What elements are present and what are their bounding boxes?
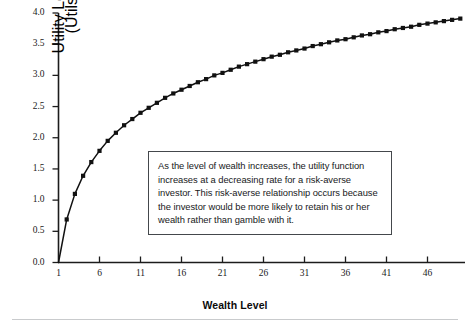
data-point-marker [360, 33, 364, 37]
data-point-marker [393, 27, 397, 31]
data-point-marker [434, 20, 438, 24]
data-point-marker [261, 57, 265, 61]
bottom-divider-rule [12, 319, 458, 320]
data-point-marker [138, 111, 142, 115]
data-point-marker [204, 77, 208, 81]
data-point-marker [188, 84, 192, 88]
y-axis-tick-label: 3.0 [19, 69, 45, 79]
data-point-marker [65, 217, 69, 221]
x-axis-ticks [100, 257, 428, 263]
x-axis-tick-label: 11 [129, 268, 153, 278]
data-point-marker [458, 17, 462, 21]
data-point-marker [376, 30, 380, 34]
y-axis-tick-label: 2.0 [19, 132, 45, 142]
data-point-marker [294, 48, 298, 52]
data-point-marker [311, 44, 315, 48]
data-point-marker [114, 131, 118, 135]
data-point-marker [106, 139, 110, 143]
x-axis-tick-label: 41 [375, 268, 399, 278]
data-point-marker [212, 73, 216, 77]
data-point-marker [147, 106, 151, 110]
y-axis-tick-label: 0.5 [19, 225, 45, 235]
data-point-marker [302, 46, 306, 50]
y-axis-tick-label: 2.5 [19, 101, 45, 111]
data-point-marker [73, 192, 77, 196]
x-axis-title: Wealth Level [0, 299, 470, 311]
utility-function-chart: 0.00.51.01.52.02.53.03.54.0 161116212631… [0, 0, 470, 325]
data-point-marker [450, 18, 454, 22]
x-axis-tick-label: 31 [293, 268, 317, 278]
data-point-marker [425, 22, 429, 26]
data-point-marker [237, 65, 241, 69]
y-axis-tick-label: 0.0 [19, 257, 45, 267]
data-point-marker [196, 80, 200, 84]
data-point-marker [179, 88, 183, 92]
y-axis-title-line-2: (Utils) [65, 0, 78, 78]
y-axis-tick-label: 1.5 [19, 163, 45, 173]
data-point-marker [384, 29, 388, 33]
data-point-marker [130, 117, 134, 121]
data-point-marker [286, 50, 290, 54]
data-point-marker [163, 96, 167, 100]
data-point-marker [352, 35, 356, 39]
x-axis-tick-label: 21 [211, 268, 235, 278]
x-axis-tick-label: 46 [416, 268, 440, 278]
x-axis-tick-label: 1 [47, 268, 71, 278]
data-point-marker [253, 60, 257, 64]
data-point-marker [327, 40, 331, 44]
data-point-marker [229, 68, 233, 72]
data-point-marker [155, 101, 159, 105]
data-point-marker [97, 149, 101, 153]
annotation-text: As the level of wealth increases, the ut… [158, 159, 382, 227]
y-axis-tick-label: 1.0 [19, 194, 45, 204]
x-axis-tick-label: 26 [252, 268, 276, 278]
y-axis-title: Utility Level (Utils) [53, 0, 78, 78]
x-axis-tick-label: 16 [170, 268, 194, 278]
y-axis-tick-label: 3.5 [19, 38, 45, 48]
data-point-marker [245, 62, 249, 66]
data-point-marker [401, 26, 405, 30]
data-point-marker [81, 174, 85, 178]
data-point-marker [278, 53, 282, 57]
x-axis-tick-label: 36 [334, 268, 358, 278]
data-point-marker [368, 32, 372, 36]
data-point-marker [122, 123, 126, 127]
data-point-marker [409, 25, 413, 29]
data-point-marker [343, 37, 347, 41]
y-axis-tick-label: 4.0 [19, 7, 45, 17]
data-point-marker [442, 19, 446, 23]
data-point-marker [319, 42, 323, 46]
annotation-callout-box: As the level of wealth increases, the ut… [148, 151, 392, 235]
data-point-marker [270, 55, 274, 59]
data-point-marker [89, 160, 93, 164]
data-point-marker [220, 71, 224, 75]
data-point-marker [417, 23, 421, 27]
data-point-marker [171, 91, 175, 95]
x-axis-tick-label: 6 [88, 268, 112, 278]
data-point-marker [335, 38, 339, 42]
